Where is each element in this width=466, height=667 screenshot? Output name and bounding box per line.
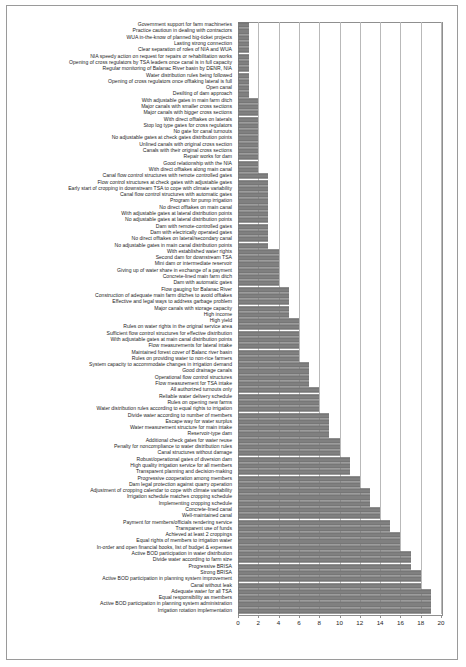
bar [238, 507, 380, 512]
x-tick-label: 12 [356, 620, 363, 626]
bar [238, 394, 319, 399]
bar [238, 369, 309, 374]
bar-series [238, 22, 441, 614]
bar [238, 123, 258, 128]
category-axis-labels: Government support for farm machineriesP… [7, 22, 235, 614]
bar [238, 86, 249, 91]
bar [238, 356, 299, 361]
bar [238, 205, 268, 210]
bar [238, 180, 268, 185]
bar [238, 476, 360, 481]
bar [238, 545, 400, 550]
tick-mark [319, 615, 320, 618]
bar [238, 325, 299, 330]
x-tick-label: 4 [277, 620, 280, 626]
tick-mark [400, 615, 401, 618]
bar [238, 413, 329, 418]
bar [238, 230, 268, 235]
tick-mark [340, 615, 341, 618]
bar [238, 608, 431, 613]
bar [238, 495, 370, 500]
bar [238, 363, 309, 368]
bar [238, 533, 400, 538]
bar [238, 306, 289, 311]
bar [238, 212, 268, 217]
bar [238, 539, 400, 544]
x-tick-label: 0 [236, 620, 239, 626]
bar [238, 218, 268, 223]
bar [238, 111, 258, 116]
bar [238, 570, 421, 575]
tick-mark [258, 615, 259, 618]
bar [238, 382, 309, 387]
bar [238, 400, 319, 405]
bar [238, 262, 279, 267]
bar [238, 501, 370, 506]
bar [238, 79, 249, 84]
bar [238, 388, 319, 393]
x-tick-label: 20 [438, 620, 445, 626]
bar [238, 470, 350, 475]
bar [238, 73, 249, 78]
bar [238, 432, 329, 437]
bar [238, 92, 249, 97]
x-tick-label: 8 [317, 620, 320, 626]
bar [238, 552, 411, 557]
bar [238, 60, 249, 65]
bar [238, 489, 370, 494]
bar [238, 161, 258, 166]
gridline [441, 22, 442, 614]
bar [238, 41, 249, 46]
bar [238, 444, 340, 449]
tick-mark [441, 615, 442, 618]
x-tick-label: 2 [257, 620, 260, 626]
x-tick-label: 10 [336, 620, 343, 626]
bar [238, 482, 360, 487]
bar [238, 29, 249, 34]
bar-row [238, 608, 441, 614]
bar [238, 256, 279, 261]
tick-mark [360, 615, 361, 618]
bar [238, 98, 258, 103]
horizontal-bar-chart: Government support for farm machineriesP… [7, 6, 457, 659]
bar [238, 451, 340, 456]
tick-mark [421, 615, 422, 618]
bar [238, 167, 258, 172]
bar [238, 520, 390, 525]
x-tick-label: 16 [397, 620, 404, 626]
bar [238, 344, 299, 349]
x-tick-label: 6 [297, 620, 300, 626]
bar [238, 174, 268, 179]
bar [238, 249, 279, 254]
bar [238, 193, 268, 198]
bar [238, 287, 289, 292]
x-axis-tick-labels: 02468101214161820 [238, 620, 441, 632]
bar [238, 596, 431, 601]
x-tick-label: 18 [417, 620, 424, 626]
category-label: Irrigation rotation implementation [7, 608, 235, 614]
bar [238, 224, 268, 229]
tick-mark [238, 615, 239, 618]
bar [238, 268, 279, 273]
bar [238, 155, 258, 160]
bar [238, 35, 249, 40]
bar [238, 104, 258, 109]
bar [238, 67, 249, 72]
bar [238, 117, 258, 122]
bar [238, 337, 299, 342]
bar [238, 199, 268, 204]
x-tick-label: 14 [377, 620, 384, 626]
bar [238, 438, 340, 443]
bar [238, 237, 268, 242]
bar [238, 419, 329, 424]
bar [238, 149, 258, 154]
bar [238, 426, 329, 431]
bar [238, 457, 350, 462]
bar [238, 130, 258, 135]
bar [238, 186, 268, 191]
bar [238, 48, 249, 53]
bar [238, 281, 279, 286]
bar [238, 312, 289, 317]
bar [238, 583, 421, 588]
bar [238, 558, 411, 563]
